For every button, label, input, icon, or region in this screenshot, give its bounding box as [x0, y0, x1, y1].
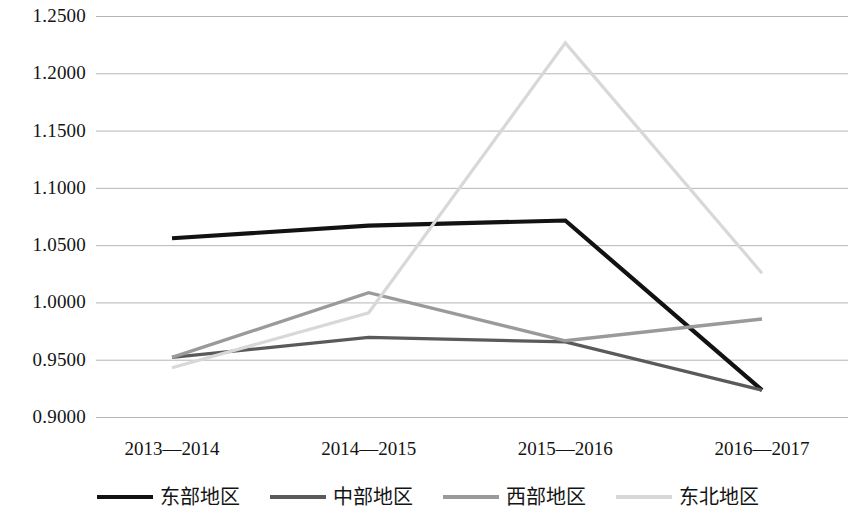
- legend-swatch-icon: [443, 495, 499, 499]
- legend-item[interactable]: 中部地区: [270, 487, 413, 507]
- y-tick-label: 1.1000: [33, 178, 86, 197]
- y-axis: 1.25001.20001.15001.10001.05001.00000.95…: [0, 0, 90, 436]
- x-tick-label: 2015—2016: [518, 437, 613, 461]
- legend-label: 东部地区: [160, 487, 240, 507]
- series-line-3: [172, 43, 762, 368]
- y-tick-label: 0.9500: [33, 350, 86, 369]
- x-tick-label: 2016—2017: [715, 437, 810, 461]
- y-tick-label: 1.0000: [33, 292, 86, 311]
- y-tick-label: 1.2500: [33, 6, 86, 25]
- legend-label: 西部地区: [506, 487, 586, 507]
- y-tick-label: 0.9000: [33, 407, 86, 426]
- x-tick-label: 2013—2014: [125, 437, 220, 461]
- legend-swatch-icon: [97, 495, 153, 499]
- y-tick-label: 1.1500: [33, 121, 86, 140]
- legend-label: 东北地区: [679, 487, 759, 507]
- x-tick-label: 2014—2015: [321, 437, 416, 461]
- series-line-1: [172, 337, 762, 390]
- y-tick-label: 1.2000: [33, 63, 86, 82]
- line-chart: 1.25001.20001.15001.10001.05001.00000.95…: [0, 0, 856, 515]
- legend-swatch-icon: [270, 495, 326, 499]
- plot-area: [96, 8, 848, 428]
- chart-legend: 东部地区中部地区西部地区东北地区: [0, 482, 856, 512]
- plot-svg: [96, 8, 848, 428]
- legend-item[interactable]: 东北地区: [616, 487, 759, 507]
- y-tick-label: 1.0500: [33, 235, 86, 254]
- legend-item[interactable]: 东部地区: [97, 487, 240, 507]
- series-lines: [172, 43, 762, 390]
- x-axis: 2013—20142014—20152015—20162016—2017: [96, 437, 848, 469]
- legend-label: 中部地区: [333, 487, 413, 507]
- legend-swatch-icon: [616, 495, 672, 499]
- legend-item[interactable]: 西部地区: [443, 487, 586, 507]
